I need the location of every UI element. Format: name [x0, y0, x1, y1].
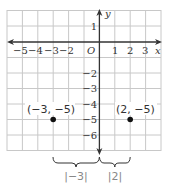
brace	[53, 157, 130, 167]
y-tick-label: −5	[82, 114, 97, 125]
y-tick-label: −4	[82, 99, 97, 110]
coordinate-plane: y x O −5 −4 −3 −2 1 2 3 1 −2 −3 −4 −5 −6…	[0, 0, 172, 193]
x-axis-label: x	[155, 45, 161, 56]
x-tick-label: −4	[28, 45, 43, 56]
x-tick-label: 2	[127, 45, 133, 56]
y-tick-label: 1	[91, 21, 97, 32]
x-tick-label: 3	[142, 45, 148, 56]
brace-label: |2|	[108, 170, 122, 183]
point-marker	[127, 117, 133, 123]
x-tick-label: −3	[44, 45, 59, 56]
origin-label: O	[87, 45, 95, 56]
y-axis	[96, 9, 102, 155]
y-tick-label: −2	[82, 68, 97, 79]
x-tick-label: −2	[59, 45, 74, 56]
point-label: (2, −5)	[116, 103, 155, 116]
x-tick-label: −5	[13, 45, 28, 56]
point-label: (−3, −5)	[27, 103, 75, 116]
x-tick-label: 1	[112, 45, 118, 56]
brace-label: |−3|	[64, 170, 88, 183]
y-tick-label: −6	[82, 130, 97, 141]
y-tick-label: −3	[82, 83, 97, 94]
point-marker	[50, 117, 56, 123]
y-axis-label: y	[104, 8, 111, 19]
